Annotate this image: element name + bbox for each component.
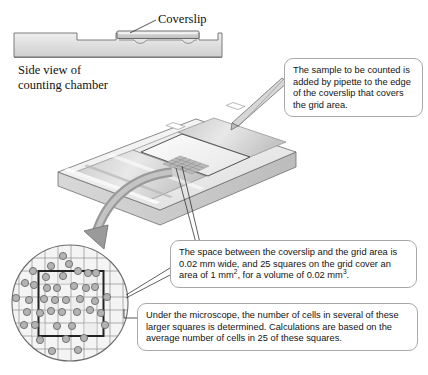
sample-callout-leader [232,78,288,126]
figure-canvas: Coverslip Side view of counting chamber … [0,0,428,375]
side-view-caption-line2: counting chamber [18,78,108,92]
callout-microscope: Under the microscope, the number of cell… [137,303,418,351]
side-view-caption: Side view of counting chamber [18,63,148,93]
slide-notch-far-right [226,103,245,110]
microscope-field-view [12,245,128,361]
volume-callout-leader [126,268,170,298]
sample-callout-leader-line [238,79,284,127]
callout-volume-part3: . [347,270,350,280]
side-view-caption-line1: Side view of [18,63,81,77]
coverslip-plate [117,31,199,39]
coverslip-label: Coverslip [158,12,207,26]
callout-sample: The sample to be counted is added by pip… [284,58,423,117]
callout-volume: The space between the coverslip and the … [170,240,417,288]
perspective-slide-assembly [58,78,296,243]
callout-volume-part2: , for a volume of 0.02 mm [237,270,342,280]
